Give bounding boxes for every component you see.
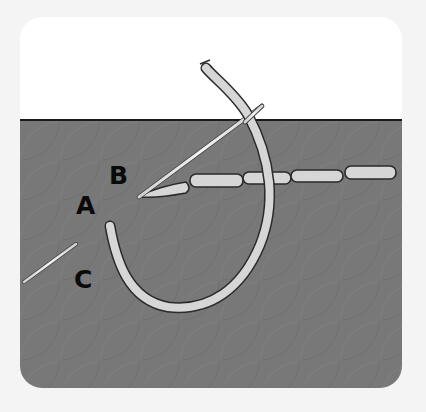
- diagram-stage: B A C: [0, 0, 426, 412]
- label-b: B: [109, 161, 128, 190]
- stitch-2: [190, 174, 243, 187]
- stitch-illustration: B A C: [0, 0, 426, 412]
- stitch-5: [345, 166, 396, 179]
- stitch-4: [291, 170, 343, 182]
- label-a: A: [76, 191, 96, 220]
- label-c: C: [74, 265, 92, 294]
- needle-c: [24, 244, 76, 282]
